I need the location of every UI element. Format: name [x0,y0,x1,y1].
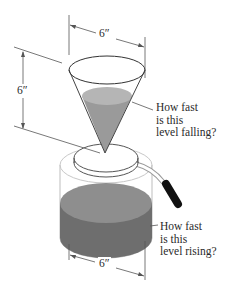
handle-grip [166,184,178,204]
cone-diameter-label: 6″ [98,27,111,39]
cone-liquid-surface [82,87,132,105]
cone-question-label: How fast is this level falling? [156,101,216,139]
cone-diameter-dimension [69,15,145,78]
jar-question-label: How fast is this level rising? [160,220,217,258]
cone-rim [69,56,145,84]
jar-liquid-surface [60,183,152,223]
jar-diameter-label: 6″ [98,257,111,269]
cone-filter [69,56,145,153]
cone-height-label: 6″ [16,84,29,96]
cone-leader-line [132,102,153,110]
